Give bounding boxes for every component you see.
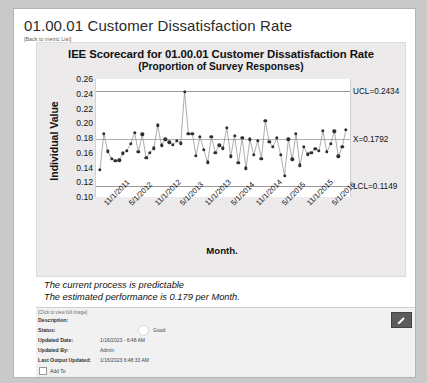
detail-row-value: 1/16/2023 - 6:48 AM (100, 337, 145, 343)
y-tick-label: 0.10 (53, 192, 93, 202)
y-tick-label: 0.12 (53, 177, 93, 187)
page-card: 01.00.01 Customer Dissatisfaction Rate [… (13, 8, 416, 378)
control-limit-label-ucl: UCL=0.2434 (353, 87, 399, 96)
page-title: 01.00.01 Customer Dissatisfaction Rate (14, 9, 415, 34)
y-tick-label: 0.26 (53, 74, 93, 84)
y-axis-ticks: 0.260.240.220.200.180.160.140.120.10 (49, 79, 93, 197)
detail-row-value: Admin (100, 347, 114, 353)
scorecard-chart-card[interactable]: IEE Scorecard for 01.00.01 Customer Diss… (36, 42, 406, 277)
detail-row-label: Description: (38, 317, 100, 323)
y-tick-label: 0.18 (53, 133, 93, 143)
y-tick-label: 0.22 (53, 104, 93, 114)
detail-row: Updated By:Admin (36, 345, 416, 355)
x-axis-ticks: 11/1/20115/1/201211/1/20125/1/201311/1/2… (95, 198, 349, 248)
add-to-row[interactable]: Add To (36, 366, 416, 376)
y-tick-label: 0.24 (53, 89, 93, 99)
detail-row-label: Last Output Updated: (38, 357, 100, 363)
chart-title: IEE Scorecard for 01.00.01 Customer Diss… (37, 43, 405, 61)
chart-subtitle: (Proportion of Survey Responses) (37, 61, 405, 73)
add-to-label: Add To (50, 368, 65, 374)
detail-row: Description: (36, 315, 416, 325)
edit-button[interactable] (391, 312, 412, 328)
add-to-checkbox-icon[interactable] (39, 367, 47, 375)
detail-row: Updated Date:1/16/2023 - 6:48 AM (36, 335, 416, 345)
detail-panel: [Click to view full image] Description:S… (36, 307, 416, 378)
detail-row-value: 1/16/2023 6:48:33 AM (100, 357, 149, 363)
detail-row-value: Good (153, 327, 165, 333)
control-limit-label-lcl: LCL=0.1149 (353, 182, 397, 191)
control-limit-label-cl: X=0.1792 (353, 134, 388, 143)
detail-row-label: Status: (38, 327, 100, 333)
click-to-view-full-image-link[interactable]: [Click to view full image] (36, 308, 416, 315)
plot-area-wrapper: Individual Value 0.260.240.220.200.180.1… (37, 79, 405, 275)
y-tick-label: 0.14 (53, 163, 93, 173)
process-note-line1: The current process is predictable (44, 280, 184, 290)
detail-row: Last Output Updated:1/16/2023 6:48:33 AM (36, 355, 416, 365)
y-tick-label: 0.20 (53, 118, 93, 128)
detail-row-label: Updated By: (38, 347, 100, 353)
detail-row-label: Updated Date: (38, 337, 100, 343)
x-axis-title: Month. (95, 245, 349, 256)
control-limit-labels: UCL=0.2434X=0.1792LCL=0.1149 (353, 79, 416, 197)
pencil-icon (396, 315, 407, 326)
status-indicator-icon (138, 325, 149, 336)
detail-row: Status:Good (36, 325, 416, 335)
process-note-line2: The estimated performance is 0.179 per M… (44, 292, 240, 302)
y-tick-label: 0.16 (53, 148, 93, 158)
detail-rows: Description:Status:GoodUpdated Date:1/16… (36, 315, 416, 365)
back-to-metric-list-link[interactable]: [Back to metric List] (14, 34, 415, 42)
